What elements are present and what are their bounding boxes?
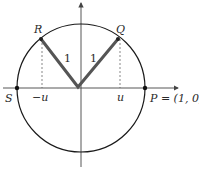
point-R xyxy=(39,37,43,41)
point-P xyxy=(143,86,147,90)
segment-label-left: 1 xyxy=(64,52,71,65)
segment-label-right: 1 xyxy=(90,52,97,65)
label-Q: Q xyxy=(116,23,125,36)
label-R: R xyxy=(33,23,42,36)
label-P: P = (1, 0) xyxy=(149,92,199,105)
point-Q xyxy=(116,37,120,41)
segments-RQ xyxy=(41,39,118,87)
point-S xyxy=(15,86,19,90)
label-S: S xyxy=(5,92,13,105)
tick-label-u: u xyxy=(117,91,124,104)
unit-circle-diagram: R Q S P = (1, 0) 1 1 −u u xyxy=(0,0,199,170)
tick-label-neg-u: −u xyxy=(32,91,48,104)
